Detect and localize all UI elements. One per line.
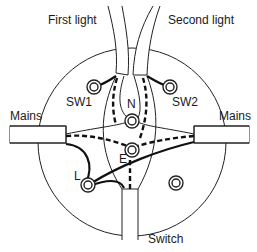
label-second-light: Second light	[168, 13, 235, 27]
cable-second-light	[133, 6, 160, 75]
wire-dashed-mains-left	[66, 136, 128, 146]
terminal-spare	[169, 176, 183, 190]
label-mains-left: Mains	[10, 109, 42, 123]
terminal-sw1	[87, 80, 101, 94]
terminal-earth	[125, 143, 139, 157]
terminal-sw2	[163, 80, 177, 94]
label-sw2: SW2	[172, 95, 198, 109]
wire-outline-right	[138, 76, 156, 189]
label-first-light: First light	[48, 13, 97, 27]
label-switch: Switch	[148, 232, 183, 246]
label-mains-right: Mains	[219, 109, 251, 123]
label-earth: E	[119, 152, 127, 166]
terminal-neutral	[125, 114, 139, 128]
wire-dashed-second-light	[140, 78, 146, 138]
cable-switch	[122, 189, 138, 247]
wiring-diagram: First light Second light Mains Mains Swi…	[0, 0, 257, 252]
wire-dashed-first-light	[113, 78, 117, 125]
label-neutral: N	[127, 97, 136, 111]
cable-first-light	[108, 6, 129, 75]
label-sw1: SW1	[66, 95, 92, 109]
label-live: L	[74, 169, 81, 183]
terminal-live	[81, 178, 95, 192]
